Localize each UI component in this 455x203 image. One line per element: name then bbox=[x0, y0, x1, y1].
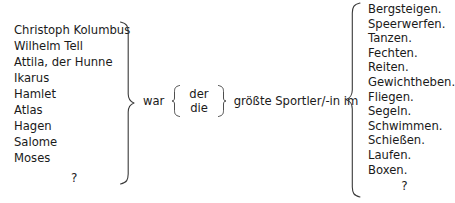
list-item[interactable]: Laufen. bbox=[368, 148, 455, 163]
list-item[interactable]: Bergsteigen. bbox=[368, 2, 455, 17]
sport-placeholder[interactable]: ? bbox=[368, 177, 455, 196]
list-item[interactable]: Reiten. bbox=[368, 60, 455, 75]
list-item[interactable]: der bbox=[189, 87, 208, 102]
verb-label: war bbox=[143, 94, 164, 108]
list-item[interactable]: Atlas bbox=[14, 102, 130, 118]
list-item[interactable]: Attila, der Hunne bbox=[14, 54, 130, 70]
object-label: größte Sportler/-in im bbox=[234, 94, 359, 108]
list-item[interactable]: Gewichtheben. bbox=[368, 75, 455, 90]
list-item[interactable]: Hamlet bbox=[14, 86, 130, 102]
list-item[interactable]: Salome bbox=[14, 134, 130, 150]
sport-group-brace bbox=[341, 1, 363, 201]
list-item[interactable]: Schwimmen. bbox=[368, 119, 455, 134]
list-item[interactable]: Fliegen. bbox=[368, 90, 455, 105]
list-item[interactable]: die bbox=[189, 101, 208, 116]
subject-group-brace bbox=[118, 20, 140, 186]
article-choice-group: der die bbox=[171, 84, 226, 118]
subject-placeholder[interactable]: ? bbox=[14, 166, 130, 191]
article-options: der die bbox=[182, 87, 215, 116]
predicate-phrase: war der die größte Sportler/-in im bbox=[143, 86, 358, 116]
list-item[interactable]: Boxen. bbox=[368, 163, 455, 178]
list-item[interactable]: Ikarus bbox=[14, 70, 130, 86]
list-item[interactable]: Moses bbox=[14, 150, 130, 166]
article-brace-right bbox=[216, 84, 227, 118]
list-item[interactable]: Tanzen. bbox=[368, 31, 455, 46]
list-item[interactable]: Hagen bbox=[14, 118, 130, 134]
sport-list: Bergsteigen. Speerwerfen. Tanzen. Fechte… bbox=[368, 2, 455, 196]
list-item[interactable]: Fechten. bbox=[368, 46, 455, 61]
list-item[interactable]: Speerwerfen. bbox=[368, 17, 455, 32]
list-item[interactable]: Segeln. bbox=[368, 104, 455, 119]
list-item[interactable]: Christoph Kolumbus bbox=[14, 22, 130, 38]
article-brace-left bbox=[171, 84, 182, 118]
subject-list: Christoph Kolumbus Wilhelm Tell Attila, … bbox=[14, 22, 130, 191]
list-item[interactable]: Schießen. bbox=[368, 133, 455, 148]
list-item[interactable]: Wilhelm Tell bbox=[14, 38, 130, 54]
